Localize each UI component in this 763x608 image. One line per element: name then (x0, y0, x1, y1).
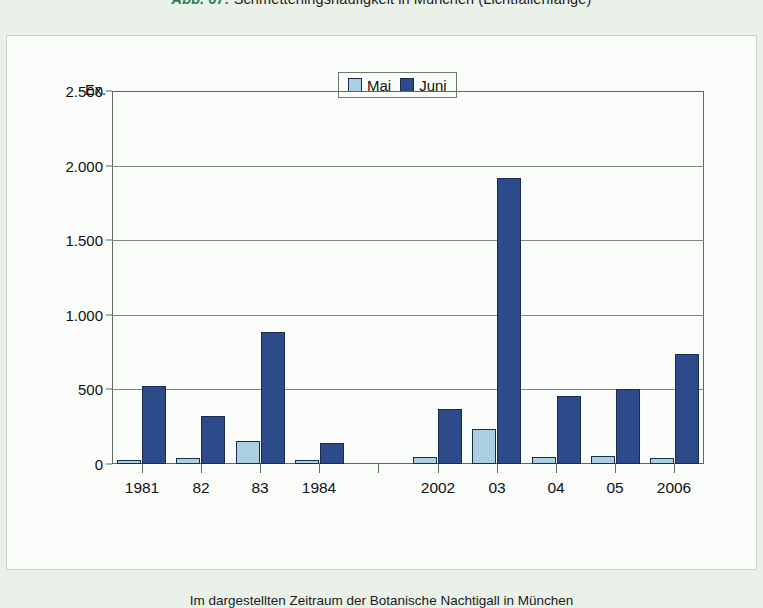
figure-number: Abb. 67: (172, 0, 230, 7)
bar-juni-2006 (675, 354, 699, 464)
y-tick-label: 2.500 (65, 83, 103, 100)
figure-title-text: Schmetterlingshäufigkeit in München (Lic… (234, 0, 592, 7)
bar-group (354, 91, 403, 464)
x-tick-mark (674, 464, 675, 473)
chart-container: Mai Juni Ex. 05001.0001.5002.0002.500 19… (6, 35, 757, 570)
bar-group (472, 91, 521, 464)
x-tick-label: 83 (251, 479, 268, 497)
x-tick-label: 1984 (302, 479, 336, 497)
bar-juni-83 (261, 332, 285, 464)
bar-group (236, 91, 285, 464)
y-tick-label: 0 (95, 456, 103, 473)
y-tick-label: 2.000 (65, 157, 103, 174)
legend-swatch-juni (400, 78, 414, 92)
bar-juni-05 (616, 389, 640, 464)
x-tick-mark (378, 464, 379, 473)
x-tick-label: 03 (488, 479, 505, 497)
x-tick-label: 82 (192, 479, 209, 497)
plot-area: 05001.0001.5002.0002.500 (112, 91, 704, 464)
x-tick-mark (142, 464, 143, 473)
bar-juni-2002 (438, 409, 462, 464)
bar-juni-04 (557, 396, 581, 464)
figure-caption: Im dargestellten Zeitraum der Botanische… (0, 593, 763, 608)
bar-group (295, 91, 344, 464)
x-tick-mark (438, 464, 439, 473)
x-tick-label: 2002 (421, 479, 455, 497)
bar-mai-03 (472, 429, 496, 464)
x-tick-mark (260, 464, 261, 473)
x-tick-label: 1981 (125, 479, 159, 497)
x-tick-mark (556, 464, 557, 473)
bar-juni-82 (201, 416, 225, 464)
bar-group (117, 91, 166, 464)
x-tick-mark (615, 464, 616, 473)
bar-mai-2002 (413, 457, 437, 464)
legend-swatch-mai (348, 78, 362, 92)
bar-mai-04 (532, 457, 556, 464)
y-tick-label: 1.500 (65, 232, 103, 249)
bar-juni-03 (497, 178, 521, 464)
bar-mai-83 (236, 441, 260, 464)
x-axis-labels: 19818283198420020304052006 (112, 479, 704, 503)
y-tick-label: 500 (78, 381, 103, 398)
x-tick-label: 2006 (657, 479, 691, 497)
x-tick-mark (319, 464, 320, 473)
bar-group (532, 91, 581, 464)
x-tick-mark (201, 464, 202, 473)
y-tick-label: 1.000 (65, 306, 103, 323)
bar-group (413, 91, 462, 464)
bar-juni-1981 (142, 386, 166, 464)
bar-group (591, 91, 640, 464)
bar-group (176, 91, 225, 464)
figure-title: Abb. 67: Schmetterlingshäufigkeit in Mün… (0, 0, 763, 7)
bar-juni-1984 (320, 443, 344, 464)
x-tick-label: 05 (606, 479, 623, 497)
bar-mai-05 (591, 456, 615, 464)
x-axis-ticks (112, 464, 704, 474)
x-tick-mark (497, 464, 498, 473)
bar-group (650, 91, 699, 464)
bar-series-container (112, 91, 704, 464)
x-tick-label: 04 (547, 479, 564, 497)
